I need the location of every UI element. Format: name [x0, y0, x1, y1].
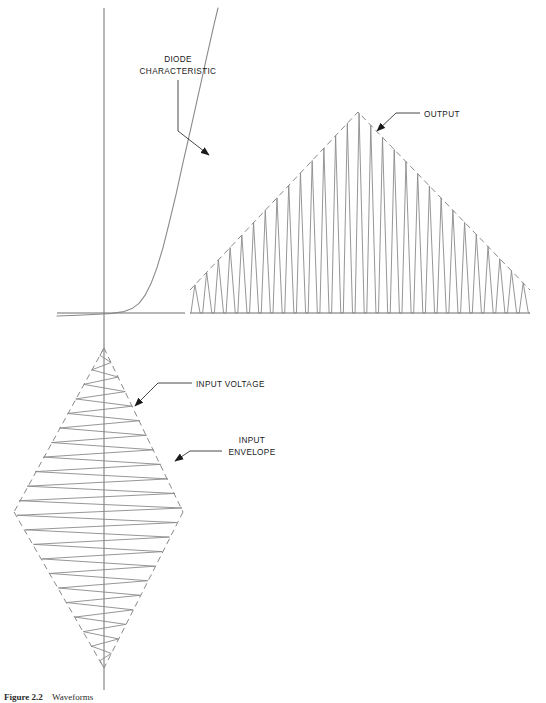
output-label: OUTPUT: [424, 110, 460, 119]
input-envelope-label-line2: ENVELOPE: [229, 448, 276, 457]
output-annotation: OUTPUT: [377, 110, 460, 131]
diode-curve: [57, 8, 218, 316]
input-voltage-annotation: INPUT VOLTAGE: [135, 380, 265, 406]
input-envelope-lower-left: [14, 512, 104, 668]
input-voltage-label: INPUT VOLTAGE: [196, 380, 265, 389]
figure-container: DIODE CHARACTERISTIC OUTPUT INPUT VOLTAG…: [0, 0, 546, 703]
input-envelope-upper-right: [104, 348, 183, 512]
output-panel: [190, 112, 530, 313]
waveform-diagram: DIODE CHARACTERISTIC OUTPUT INPUT VOLTAG…: [0, 0, 546, 703]
figure-caption: Figure 2.2 Waveforms: [4, 692, 94, 702]
input-envelope-label-line1: INPUT: [239, 436, 265, 445]
figure-caption-text: Waveforms: [52, 692, 94, 702]
input-voltage-leader-line: [135, 383, 192, 406]
output-pulse-train: [190, 113, 530, 313]
input-envelope-annotation: INPUT ENVELOPE: [175, 436, 276, 461]
input-envelope-leader-line: [175, 451, 222, 461]
input-carrier-waveform: [17, 348, 182, 668]
diode-characteristic-panel: [57, 8, 218, 690]
diode-characteristic-annotation: DIODE CHARACTERISTIC: [140, 55, 217, 155]
diode-characteristic-label-line2: CHARACTERISTIC: [140, 67, 217, 76]
output-leader-line: [377, 113, 420, 131]
figure-caption-number: Figure 2.2: [4, 692, 43, 702]
diode-characteristic-label-line1: DIODE: [164, 55, 192, 64]
input-panel: [14, 348, 183, 668]
output-pulse-polyline: [190, 113, 530, 313]
